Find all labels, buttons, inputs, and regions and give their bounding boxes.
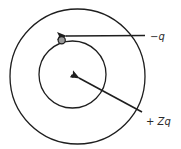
outer-orbit-circle [10,9,145,144]
nucleus-dot [71,74,75,78]
electron-arrow [66,36,145,37]
electron-particle [58,37,65,44]
nucleus-arrow [79,78,142,112]
atom-diagram: −q + Zq [0,0,181,149]
electron-charge-label: −q [150,31,165,42]
nucleus-charge-label: + Zq [146,116,171,127]
